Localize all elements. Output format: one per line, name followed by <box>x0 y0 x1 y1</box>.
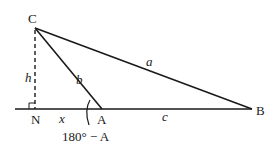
vertex-label-c: C <box>28 11 37 26</box>
vertex-label-n: N <box>31 112 41 127</box>
vertex-label-b: B <box>256 103 265 118</box>
side-label-b: b <box>76 72 83 87</box>
altitude-label-h: h <box>25 70 32 85</box>
exterior-angle-arc <box>87 100 90 125</box>
side-label-a: a <box>146 54 153 69</box>
side-label-c: c <box>162 109 168 124</box>
triangle-diagram: C h b a N x A c B 180° − A <box>0 0 273 146</box>
segment-label-x: x <box>58 111 65 126</box>
right-angle-marker <box>29 103 35 109</box>
exterior-angle-label: 180° − A <box>62 129 110 144</box>
vertex-label-a: A <box>97 112 107 127</box>
